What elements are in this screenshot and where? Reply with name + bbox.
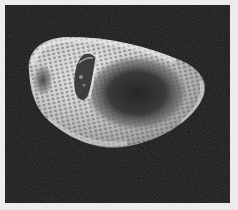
aperture-granule	[83, 84, 86, 87]
sem-micrograph-frame	[5, 5, 230, 203]
pollen-grain-illustration	[5, 5, 230, 203]
print-background	[0, 0, 238, 210]
aperture-granule	[79, 75, 83, 79]
concave-face-shadow	[85, 55, 189, 131]
left-shadow-patch	[33, 64, 53, 96]
